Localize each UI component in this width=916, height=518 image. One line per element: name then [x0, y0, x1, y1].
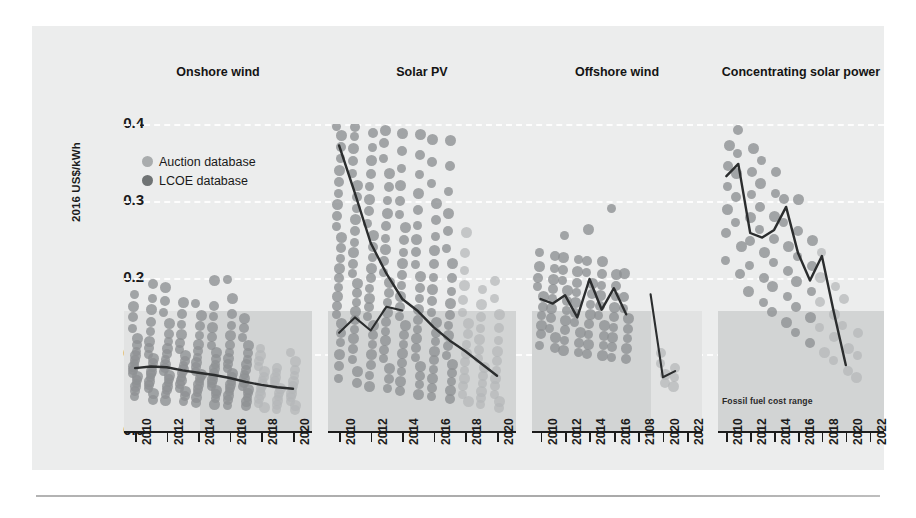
x-tick-label: 2010: [546, 418, 560, 445]
fossil-fuel-range-label: Fossil fuel cost range: [722, 396, 813, 406]
x-tick-label: 2014: [779, 418, 793, 445]
x-tick-label: 2010: [140, 418, 154, 445]
x-tick-mark: [167, 433, 169, 442]
trend-line-group: [328, 124, 516, 431]
x-tick-mark: [402, 433, 404, 442]
panel-title: Concentrating solar power: [718, 66, 884, 80]
x-tick-label: 2016: [803, 418, 817, 445]
x-tick-mark: [261, 433, 263, 442]
x-tick-label: 2014: [594, 418, 608, 445]
x-tick-mark: [774, 433, 776, 442]
chart-panel: Concentrating solar powerFossil fuel cos…: [718, 66, 884, 431]
x-tick-mark: [663, 433, 665, 442]
chart-panel: Onshore wind: [124, 66, 312, 431]
x-tick-label: 2020: [298, 418, 312, 445]
x-tick-label: 2018: [827, 418, 841, 445]
x-tick-label: 2108: [643, 418, 657, 445]
x-tick-mark: [371, 433, 373, 442]
trend-line: [726, 164, 845, 365]
panel-title: Onshore wind: [124, 66, 312, 80]
x-tick-mark: [638, 433, 640, 442]
x-tick-mark: [293, 433, 295, 442]
x-tick-mark: [339, 433, 341, 442]
trend-line-group: [124, 124, 312, 431]
x-tick-mark: [198, 433, 200, 442]
trend-line: [339, 307, 402, 333]
x-tick-label: 2022: [692, 418, 706, 445]
x-tick-label: 2014: [203, 418, 217, 445]
x-tick-mark: [822, 433, 824, 442]
x-tick-mark: [434, 433, 436, 442]
x-tick-label: 2014: [407, 418, 421, 445]
x-tick-label: 2012: [570, 418, 584, 445]
x-tick-label: 2010: [344, 418, 358, 445]
footer-divider: [36, 495, 880, 497]
plot-area: Fossil fuel cost range: [718, 124, 884, 431]
trend-line: [651, 294, 676, 377]
x-tick-label: 2012: [376, 418, 390, 445]
x-tick-mark: [870, 433, 872, 442]
x-tick-label: 2020: [851, 418, 865, 445]
chart-panel: Offshore wind: [532, 66, 702, 431]
plot-area: [124, 124, 312, 431]
trend-line-group: [532, 124, 702, 431]
x-tick-label: 2016: [439, 418, 453, 445]
x-tick-mark: [497, 433, 499, 442]
plot-area: [532, 124, 702, 431]
x-tick-mark: [135, 433, 137, 442]
x-tick-label: 2012: [755, 418, 769, 445]
trend-line: [541, 279, 627, 317]
x-tick-label: 2022: [875, 418, 889, 445]
x-tick-label: 2020: [668, 418, 682, 445]
panel-title: Solar PV: [328, 66, 516, 80]
y-axis-label: 2016 US$/kWh: [70, 142, 82, 222]
x-tick-label: 2020: [502, 418, 516, 445]
trend-line: [339, 146, 497, 376]
x-tick-mark: [541, 433, 543, 442]
x-tick-label: 2016: [619, 418, 633, 445]
x-tick-mark: [589, 433, 591, 442]
x-tick-mark: [687, 433, 689, 442]
chart-panel: Solar PV: [328, 66, 516, 431]
x-tick-mark: [750, 433, 752, 442]
x-tick-label: 2010: [731, 418, 745, 445]
x-tick-label: 2018: [470, 418, 484, 445]
trend-line-group: [718, 124, 884, 431]
x-tick-mark: [230, 433, 232, 442]
x-tick-mark: [726, 433, 728, 442]
x-tick-label: 2018: [266, 418, 280, 445]
plot-area: [328, 124, 516, 431]
trend-line: [135, 367, 293, 389]
x-tick-label: 2012: [172, 418, 186, 445]
panel-title: Offshore wind: [532, 66, 702, 80]
figure-canvas: 2016 US$/kWh 0.00.10.20.30.4 Auction dat…: [32, 26, 884, 470]
x-tick-mark: [798, 433, 800, 442]
x-tick-label: 2016: [235, 418, 249, 445]
x-tick-mark: [465, 433, 467, 442]
x-tick-mark: [565, 433, 567, 442]
x-tick-mark: [614, 433, 616, 442]
x-tick-mark: [846, 433, 848, 442]
